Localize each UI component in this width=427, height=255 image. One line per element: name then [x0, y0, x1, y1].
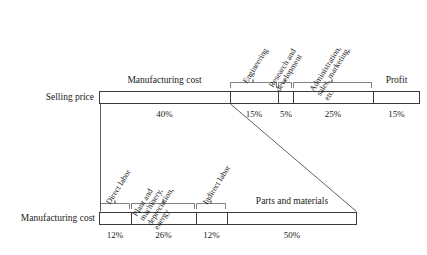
row-label-selling-price: Selling price [10, 93, 94, 103]
percent-plant-machinery: 26% [131, 231, 196, 240]
segment-direct-labor[interactable] [100, 213, 132, 224]
percent-direct-labor: 12% [99, 231, 131, 240]
caption-parts-and-materials: Parts and materials [227, 197, 357, 207]
segment-engineering[interactable] [231, 92, 279, 103]
segment-profit[interactable] [374, 92, 421, 103]
caption-manufacturing-cost: Manufacturing cost [99, 76, 230, 86]
percent-indirect-labor: 12% [196, 231, 227, 240]
segment-parts-materials[interactable] [228, 213, 358, 224]
percent-profit: 15% [373, 110, 420, 119]
percent-administration: 25% [293, 110, 373, 119]
percent-manufacturing-cost: 40% [99, 110, 230, 119]
diagram-canvas: Selling price Manufacturing cost Profit … [0, 0, 427, 255]
percent-parts-materials: 50% [227, 231, 357, 240]
segment-indirect-labor[interactable] [197, 213, 228, 224]
row-label-manufacturing-cost: Manufacturing cost [2, 214, 95, 224]
selling-price-bar[interactable] [99, 91, 420, 104]
segment-manufacturing-cost[interactable] [100, 92, 231, 103]
caption-profit: Profit [373, 76, 420, 86]
